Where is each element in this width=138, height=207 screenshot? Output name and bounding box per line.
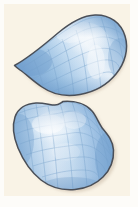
top-margin [0,0,138,4]
right-margin [130,0,138,207]
surfaces-illustration [0,0,138,207]
left-margin [0,0,4,207]
figure-container [0,0,138,207]
bottom-margin [0,196,138,207]
